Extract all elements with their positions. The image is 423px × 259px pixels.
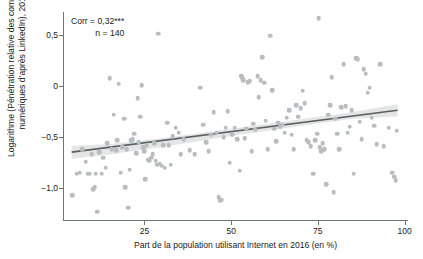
x-tick-label: 25 [140, 226, 149, 236]
scatter-point [298, 106, 303, 111]
y-tick-mark [59, 188, 63, 189]
scatter-point [393, 178, 398, 183]
scatter-point [134, 151, 139, 156]
scatter-point [247, 79, 252, 84]
scatter-point [280, 122, 285, 127]
scatter-point [132, 132, 137, 137]
scatter-point [378, 62, 383, 67]
y-tick-mark [59, 86, 63, 87]
x-tick-label: 50 [226, 226, 235, 236]
y-tick-label: −1,0 [41, 183, 58, 193]
scatter-point [115, 138, 120, 143]
scatter-point [198, 86, 203, 91]
scatter-point [150, 152, 155, 157]
scatter-point [311, 172, 316, 177]
scatter-point [235, 137, 240, 142]
scatter-point [366, 91, 371, 96]
scatter-point [87, 172, 92, 177]
scatter-point [302, 101, 307, 106]
scatter-point [274, 139, 279, 144]
scatter-point [300, 89, 305, 94]
scatter-point [228, 160, 233, 165]
scatter-point [143, 177, 148, 182]
x-tick-mark [318, 221, 319, 225]
y-axis-title-line2: numériques d’après LinkedIn), 2018 [17, 0, 28, 161]
scatter-point [204, 140, 209, 145]
scatter-point [337, 147, 342, 152]
scatter-point [105, 141, 110, 146]
scatter-point [223, 126, 228, 131]
correlation-label: Corr = 0,32*** [71, 16, 124, 28]
scatter-point [126, 205, 131, 210]
x-axis-line [63, 220, 408, 221]
scatter-point [270, 88, 275, 93]
scatter-point [156, 31, 161, 36]
scatter-point [117, 81, 122, 86]
scatter-point [375, 142, 380, 147]
scatter-point [101, 155, 106, 160]
scatter-point [144, 143, 149, 148]
y-axis-title: Logarithme (Pénétration relative des com… [6, 0, 28, 161]
scatter-point [244, 127, 249, 132]
scatter-point [114, 148, 119, 153]
scatter-point [347, 124, 352, 129]
chart-figure: 0,50−0,5−1,0 255075100 Corr = 0,32*** n … [0, 0, 423, 259]
y-tick-label: 0,5 [46, 30, 58, 40]
scatter-point [257, 95, 262, 100]
scatter-point [181, 137, 186, 142]
scatter-point [83, 159, 88, 164]
scatter-point [251, 121, 256, 126]
x-tick-label: 75 [313, 226, 322, 236]
scatter-point [80, 147, 85, 152]
scatter-point [232, 126, 237, 131]
scatter-point [328, 103, 333, 108]
scatter-point [92, 185, 97, 190]
scatter-point [266, 147, 271, 152]
scatter-point [165, 120, 170, 125]
scatter-point [350, 108, 355, 113]
scatter-point [253, 128, 258, 133]
scatter-point [111, 112, 116, 117]
x-axis-title: Part de la population utilisant Internet… [63, 240, 408, 250]
scatter-point [249, 149, 254, 154]
scatter-point [355, 57, 360, 62]
scatter-point [163, 165, 168, 170]
plot-area: 0,50−0,5−1,0 255075100 Corr = 0,32*** n … [63, 12, 408, 221]
scatter-point [152, 141, 157, 146]
scatter-point [214, 131, 219, 136]
scatter-point [97, 150, 102, 155]
scatter-point [395, 129, 400, 134]
scatter-point [289, 133, 294, 138]
scatter-point [70, 193, 75, 198]
scatter-point [268, 33, 273, 38]
scatter-point [260, 55, 265, 60]
scatter-point [138, 114, 143, 119]
stats-annotation: Corr = 0,32*** n = 140 [71, 16, 124, 39]
chart-title [0, 0, 423, 2]
scatter-point [313, 138, 318, 143]
scatter-point [315, 132, 320, 137]
x-tick-label: 100 [397, 226, 411, 236]
scatter-point [139, 83, 144, 88]
scatter-point [264, 118, 269, 123]
scatter-point [329, 75, 334, 80]
scatter-point [90, 152, 95, 157]
scatter-point [225, 109, 230, 114]
y-tick-mark [59, 137, 63, 138]
scatter-point [212, 110, 217, 115]
scatter-point [282, 131, 287, 136]
sample-size-label: n = 140 [71, 28, 124, 40]
x-tick-mark [231, 221, 232, 225]
scatter-point [209, 133, 214, 138]
scatter-point [372, 123, 377, 128]
scatter-point [130, 137, 135, 142]
scatter-point [331, 190, 336, 195]
scatter-point [193, 152, 198, 157]
scatter-point [272, 127, 277, 132]
scatter-point [287, 108, 292, 113]
scatter-point [370, 115, 375, 120]
scatter-point [320, 141, 325, 146]
scatter-point [167, 143, 172, 148]
scatter-point [187, 148, 192, 153]
scatter-point [179, 152, 184, 157]
